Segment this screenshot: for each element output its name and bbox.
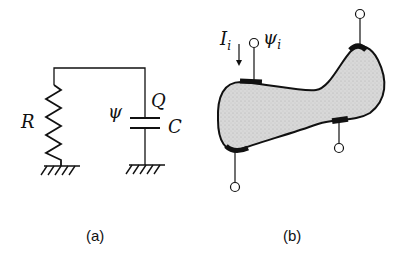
electrode-bottom-left (226, 146, 248, 192)
conductive-body (218, 46, 385, 150)
current-label: Ii (219, 28, 231, 53)
terminal-icon (250, 39, 259, 48)
potential-label: ψ (108, 101, 123, 122)
electrode-bottom-right (332, 116, 349, 153)
caption-b: (b) (283, 227, 301, 244)
terminal-icon (335, 144, 344, 153)
top-wire (54, 68, 145, 118)
terminal-icon (356, 10, 365, 19)
rc-circuit: R ψ Q C (20, 68, 182, 175)
capacitance-label: C (168, 116, 182, 137)
capacitor-icon (130, 118, 160, 165)
ground-icon (41, 166, 80, 175)
terminal-icon (231, 183, 240, 192)
potential-label: ψi (263, 27, 281, 52)
resistor-icon (46, 85, 61, 166)
electrode-top-right (350, 10, 366, 51)
electrode-body-diagram: Ii ψi (218, 10, 385, 192)
current-arrow-icon (236, 44, 242, 66)
charge-label: Q (151, 90, 166, 111)
figure: R ψ Q C (0, 0, 408, 265)
resistor-label: R (20, 111, 35, 132)
electrode-top-left (240, 39, 262, 85)
ground-icon (126, 165, 165, 174)
caption-a: (a) (86, 227, 104, 244)
